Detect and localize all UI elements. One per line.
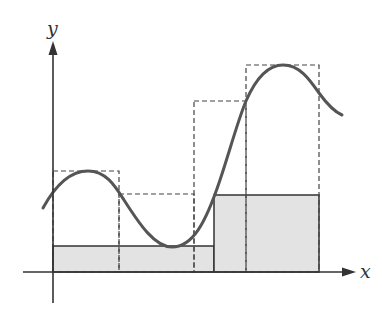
lower-rectangle-1	[53, 246, 214, 272]
y-axis-arrow-icon	[49, 41, 58, 55]
riemann-sum-diagram: x y	[0, 0, 382, 310]
x-axis-label: x	[360, 260, 371, 282]
y-axis-label: y	[46, 17, 58, 39]
diagram-canvas: x y	[0, 0, 382, 310]
x-axis-arrow-icon	[342, 268, 356, 277]
lower-rectangle-2	[214, 195, 319, 272]
lower-rectangles	[53, 195, 319, 272]
